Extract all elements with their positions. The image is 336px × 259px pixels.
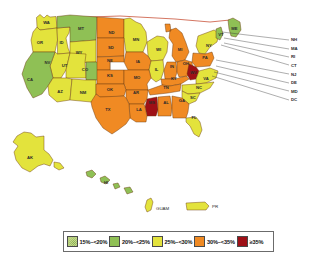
legend-label-2: 25%–<30% [164, 239, 192, 245]
states-layer [13, 15, 241, 195]
callout-label-ma: MA [291, 46, 298, 51]
state-va[interactable] [196, 68, 218, 84]
state-wa[interactable] [37, 15, 58, 31]
state-ok[interactable] [96, 84, 126, 97]
legend-item-3[interactable]: 30%–<35% [194, 236, 236, 247]
map-svg: WAORIDMTNDMNWIMINYVTMEWYSDIAILINOHPANVUT… [0, 0, 336, 230]
legend-swatch-3 [194, 236, 205, 247]
callout-label-ct: CT [291, 63, 297, 68]
map-legend: 15%–<20%20%–<25%25%–<30%30%–<35%≥35% [63, 231, 274, 252]
callout-label-de: DE [291, 80, 297, 85]
territory-label-guam: GUAM [156, 206, 170, 211]
legend-item-2[interactable]: 25%–<30% [152, 236, 194, 247]
callout-label-ri: RI [291, 54, 295, 59]
callout-label-md: MD [291, 89, 298, 94]
legend-label-4: ≥35% [249, 239, 263, 245]
legend-swatch-1 [109, 236, 120, 247]
state-ks[interactable] [97, 70, 124, 84]
state-nm[interactable] [70, 79, 96, 102]
state-or[interactable] [31, 27, 58, 52]
callout-label-nh: NH [291, 37, 297, 42]
legend-item-4[interactable]: ≥35% [237, 236, 265, 247]
territory-guam[interactable] [145, 198, 153, 212]
state-sd[interactable] [97, 38, 124, 57]
callout-labels-layer: NHMARICTNJDEMDDC [291, 37, 298, 102]
legend-item-1[interactable]: 20%–<25% [109, 236, 151, 247]
state-ut[interactable] [66, 53, 86, 78]
state-il[interactable] [149, 60, 164, 82]
legend-swatch-4 [237, 236, 248, 247]
callout-label-dc: DC [291, 97, 297, 102]
state-wi[interactable] [147, 36, 168, 61]
state-mn[interactable] [124, 18, 147, 52]
territories-layer [145, 198, 209, 212]
legend-item-0[interactable]: 15%–<20% [67, 236, 109, 247]
territory-label-pr: PR [212, 204, 218, 209]
state-pa[interactable] [192, 52, 214, 67]
state-id[interactable] [57, 27, 70, 54]
us-obesity-map: WAORIDMTNDMNWIMINYVTMEWYSDIAILINOHPANVUT… [0, 0, 336, 259]
state-mo[interactable] [124, 70, 151, 90]
state-hi[interactable] [86, 170, 133, 194]
legend-label-0: 15%–<20% [80, 239, 108, 245]
state-vt[interactable] [216, 27, 223, 40]
state-ak[interactable] [13, 132, 64, 172]
legend-label-3: 30%–<35% [207, 239, 235, 245]
state-ms[interactable] [145, 97, 158, 116]
legend-swatch-2 [152, 236, 163, 247]
state-fl[interactable] [186, 117, 202, 137]
state-in[interactable] [164, 62, 177, 79]
state-mi[interactable] [165, 24, 189, 62]
state-az[interactable] [48, 78, 72, 102]
state-tn[interactable] [148, 84, 181, 95]
state-nc[interactable] [182, 82, 214, 94]
state-al[interactable] [158, 96, 172, 116]
territory-pr[interactable] [186, 202, 209, 210]
state-ne[interactable] [97, 56, 124, 70]
state-ny[interactable] [196, 30, 219, 54]
state-ia[interactable] [124, 52, 151, 70]
state-tx[interactable] [91, 94, 130, 134]
legend-swatch-0 [67, 236, 78, 247]
state-nd[interactable] [97, 17, 124, 38]
state-ar[interactable] [126, 90, 148, 104]
legend-label-1: 20%–<25% [122, 239, 150, 245]
state-la[interactable] [129, 104, 147, 122]
callout-leader-lines [212, 32, 289, 100]
callout-label-nj: NJ [291, 72, 297, 77]
